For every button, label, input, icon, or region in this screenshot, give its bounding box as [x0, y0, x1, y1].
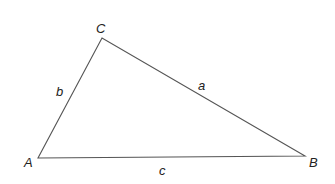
side-label-a: a: [198, 78, 205, 93]
triangle-abc: [38, 38, 305, 158]
vertex-label-c: C: [96, 21, 106, 36]
vertex-label-a: A: [23, 155, 33, 170]
vertex-label-b: B: [309, 155, 318, 170]
side-c: [38, 156, 305, 158]
triangle-svg: A B C a b c: [0, 0, 335, 184]
side-label-b: b: [56, 84, 63, 99]
triangle-diagram: A B C a b c: [0, 0, 335, 184]
side-a: [102, 38, 305, 156]
side-b: [38, 38, 102, 158]
side-label-c: c: [159, 163, 166, 178]
